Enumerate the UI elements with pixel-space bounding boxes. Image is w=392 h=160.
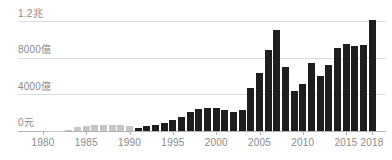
x-axis-label: 2005 [248, 137, 271, 148]
plot-area: 1.2兆8000億4000億0元198019851990199520002005… [18, 0, 386, 160]
x-axis-label: 2010 [291, 137, 314, 148]
x-axis-label: 2015 [335, 137, 358, 148]
bar-1982 [57, 131, 64, 132]
x-tick [260, 131, 261, 135]
x-axis-label: 2018 [361, 137, 384, 148]
bar-1998 [195, 109, 202, 131]
bar-1999 [204, 108, 211, 131]
x-tick [43, 131, 44, 135]
bar-2013 [325, 65, 332, 131]
x-axis-label: 1980 [31, 137, 54, 148]
y-gridline [18, 58, 386, 59]
x-axis-label: 1990 [118, 137, 141, 148]
bar-2014 [334, 48, 341, 131]
x-tick [216, 131, 217, 135]
bar-2009 [291, 91, 298, 131]
bar-1984 [74, 127, 81, 131]
x-tick [173, 131, 174, 135]
bar-2004 [247, 88, 254, 131]
x-tick [303, 131, 304, 135]
bar-1997 [187, 112, 194, 131]
x-tick [372, 131, 373, 135]
bar-2003 [239, 110, 246, 131]
bar-1994 [161, 123, 168, 131]
bar-1996 [178, 117, 185, 131]
bar-2005 [256, 73, 263, 131]
bar-2001 [221, 110, 228, 131]
bar-2000 [213, 108, 220, 131]
y-axis-label: 4000億 [18, 82, 51, 92]
y-axis-label: 8000億 [18, 45, 51, 55]
x-tick [86, 131, 87, 135]
x-axis-label: 2000 [205, 137, 228, 148]
x-tick [130, 131, 131, 135]
y-gridline [18, 21, 386, 22]
bar-1991 [135, 128, 142, 131]
bar-1992 [143, 126, 150, 131]
bar-2012 [317, 76, 324, 131]
x-axis-label: 1985 [75, 137, 98, 148]
bar-chart: 1.2兆8000億4000億0元198019851990199520002005… [0, 0, 392, 160]
bar-1995 [169, 120, 176, 131]
bar-2011 [308, 63, 315, 131]
bar-2002 [230, 112, 237, 131]
bar-2016 [351, 46, 358, 131]
bar-1989 [117, 125, 124, 131]
bar-2008 [282, 67, 289, 131]
x-axis-label: 1995 [161, 137, 184, 148]
bar-2018 [369, 20, 376, 131]
bar-1988 [109, 125, 116, 131]
bar-1986 [91, 125, 98, 131]
x-tick [346, 131, 347, 135]
bar-2017 [360, 45, 367, 131]
bar-2010 [299, 84, 306, 131]
y-axis-label: 0元 [18, 118, 34, 128]
bar-1987 [100, 125, 107, 131]
y-axis-label: 1.2兆 [18, 9, 43, 19]
bar-2007 [273, 30, 280, 131]
bar-1993 [152, 125, 159, 131]
bar-2015 [343, 44, 350, 131]
bar-1983 [65, 130, 72, 131]
x-axis-line [18, 131, 386, 132]
bar-2006 [265, 50, 272, 131]
